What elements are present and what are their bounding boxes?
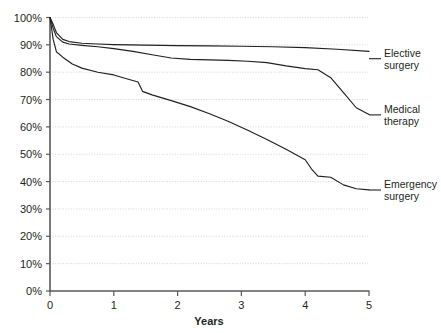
y-tick-label: 100%	[14, 12, 42, 24]
x-tick-label: 3	[238, 299, 244, 311]
y-tick-label: 10%	[20, 258, 42, 270]
y-tick-label: 0%	[26, 285, 42, 297]
series-label-emergency-line1: Emergency	[384, 178, 438, 190]
y-tick-label: 30%	[20, 203, 42, 215]
series-label-elective-line2: surgery	[384, 59, 420, 71]
y-tick-label: 40%	[20, 176, 42, 188]
chart-svg: 0%10%20%30%40%50%60%70%80%90%100% 012345…	[0, 0, 441, 333]
y-tick-label: 20%	[20, 230, 42, 242]
chart-background	[0, 0, 441, 333]
x-tick-label: 4	[302, 299, 308, 311]
x-tick-label: 0	[47, 299, 53, 311]
x-axis-title: Years	[194, 315, 223, 327]
survival-curve-chart: 0%10%20%30%40%50%60%70%80%90%100% 012345…	[0, 0, 441, 333]
series-label-medical-line2: therapy	[384, 115, 420, 127]
series-label-emergency-line2: surgery	[384, 190, 420, 202]
series-label-elective-line1: Elective	[384, 47, 421, 59]
y-tick-label: 70%	[20, 94, 42, 106]
y-tick-label: 80%	[20, 66, 42, 78]
y-tick-label: 50%	[20, 148, 42, 160]
x-tick-label: 1	[111, 299, 117, 311]
y-tick-label: 90%	[20, 39, 42, 51]
x-tick-label: 5	[366, 299, 372, 311]
x-tick-label: 2	[175, 299, 181, 311]
y-tick-label: 60%	[20, 121, 42, 133]
series-label-medical-line1: Medical	[384, 103, 420, 115]
